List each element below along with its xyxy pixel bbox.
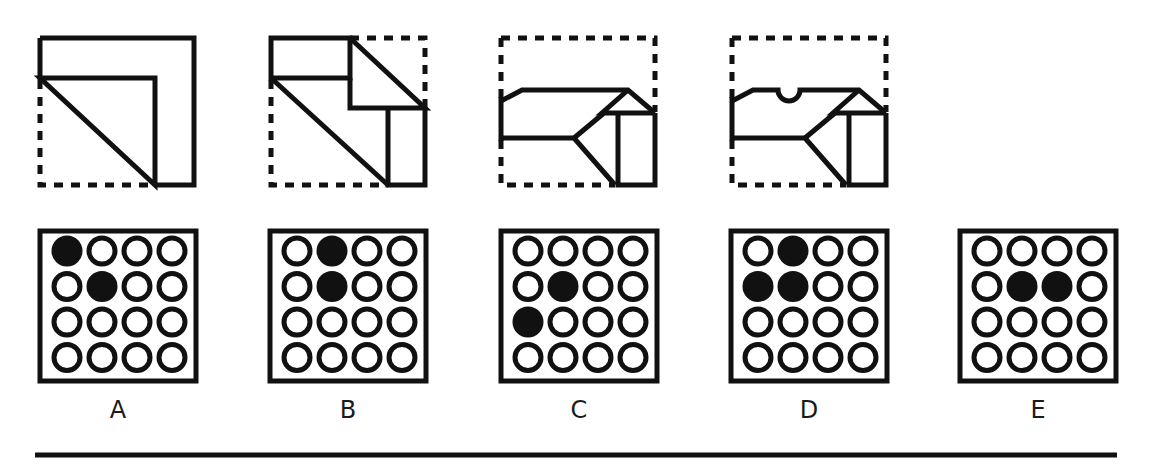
fold-step-1 bbox=[40, 38, 194, 185]
empty-dot bbox=[284, 309, 310, 335]
fold-step-3 bbox=[501, 38, 655, 185]
empty-dot bbox=[284, 274, 310, 300]
empty-dot bbox=[515, 238, 541, 264]
empty-dot bbox=[319, 345, 345, 371]
empty-dot bbox=[389, 345, 415, 371]
empty-dot bbox=[1079, 309, 1105, 335]
empty-dot bbox=[1079, 238, 1105, 264]
empty-dot bbox=[1044, 345, 1070, 371]
filled-dot bbox=[513, 307, 544, 338]
empty-dot bbox=[850, 274, 876, 300]
empty-dot bbox=[389, 238, 415, 264]
empty-dot bbox=[974, 238, 1000, 264]
empty-dot bbox=[89, 238, 115, 264]
empty-dot bbox=[89, 345, 115, 371]
filled-dot bbox=[87, 271, 118, 302]
filled-dot bbox=[778, 236, 809, 267]
empty-dot bbox=[1009, 309, 1035, 335]
empty-dot bbox=[550, 345, 576, 371]
empty-dot bbox=[159, 345, 185, 371]
empty-dot bbox=[159, 274, 185, 300]
option-a[interactable] bbox=[40, 231, 196, 381]
filled-dot bbox=[1042, 271, 1073, 302]
empty-dot bbox=[550, 238, 576, 264]
empty-dot bbox=[620, 238, 646, 264]
empty-dot bbox=[54, 345, 80, 371]
empty-dot bbox=[515, 274, 541, 300]
empty-dot bbox=[124, 345, 150, 371]
option-b[interactable] bbox=[270, 231, 426, 381]
filled-dot bbox=[743, 271, 774, 302]
filled-dot bbox=[1007, 271, 1038, 302]
empty-dot bbox=[550, 309, 576, 335]
empty-dot bbox=[1044, 238, 1070, 264]
empty-dot bbox=[780, 345, 806, 371]
empty-dot bbox=[354, 238, 380, 264]
empty-dot bbox=[745, 309, 771, 335]
empty-dot bbox=[850, 309, 876, 335]
empty-dot bbox=[1044, 309, 1070, 335]
empty-dot bbox=[124, 238, 150, 264]
filled-dot bbox=[778, 271, 809, 302]
option-label-b: B bbox=[318, 396, 378, 424]
empty-dot bbox=[620, 345, 646, 371]
empty-dot bbox=[354, 274, 380, 300]
empty-dot bbox=[780, 309, 806, 335]
option-e[interactable] bbox=[960, 231, 1116, 381]
empty-dot bbox=[89, 309, 115, 335]
empty-dot bbox=[354, 309, 380, 335]
puzzle-canvas: A B C D E bbox=[0, 0, 1150, 468]
filled-dot bbox=[548, 271, 579, 302]
empty-dot bbox=[389, 309, 415, 335]
empty-dot bbox=[124, 274, 150, 300]
option-label-c: C bbox=[549, 396, 609, 424]
empty-dot bbox=[815, 309, 841, 335]
filled-dot bbox=[317, 236, 348, 267]
answer-options bbox=[40, 231, 1116, 381]
empty-dot bbox=[620, 274, 646, 300]
option-label-e: E bbox=[1008, 396, 1068, 424]
option-label-a: A bbox=[88, 396, 148, 424]
fold-step-4 bbox=[732, 38, 886, 185]
empty-dot bbox=[354, 345, 380, 371]
empty-dot bbox=[124, 309, 150, 335]
empty-dot bbox=[585, 309, 611, 335]
empty-dot bbox=[319, 309, 345, 335]
empty-dot bbox=[1009, 345, 1035, 371]
empty-dot bbox=[585, 238, 611, 264]
empty-dot bbox=[159, 309, 185, 335]
empty-dot bbox=[54, 309, 80, 335]
empty-dot bbox=[745, 345, 771, 371]
empty-dot bbox=[54, 274, 80, 300]
option-label-d: D bbox=[779, 396, 839, 424]
empty-dot bbox=[745, 238, 771, 264]
empty-dot bbox=[850, 345, 876, 371]
filled-dot bbox=[317, 271, 348, 302]
empty-dot bbox=[585, 345, 611, 371]
empty-dot bbox=[284, 238, 310, 264]
empty-dot bbox=[974, 309, 1000, 335]
empty-dot bbox=[1009, 238, 1035, 264]
empty-dot bbox=[515, 345, 541, 371]
empty-dot bbox=[974, 345, 1000, 371]
empty-dot bbox=[1079, 345, 1105, 371]
option-d[interactable] bbox=[731, 231, 887, 381]
empty-dot bbox=[974, 274, 1000, 300]
empty-dot bbox=[389, 274, 415, 300]
punch-hole-notch bbox=[732, 90, 886, 113]
empty-dot bbox=[620, 309, 646, 335]
option-c[interactable] bbox=[501, 231, 657, 381]
empty-dot bbox=[815, 274, 841, 300]
empty-dot bbox=[850, 238, 876, 264]
empty-dot bbox=[1079, 274, 1105, 300]
empty-dot bbox=[815, 345, 841, 371]
filled-dot bbox=[52, 236, 83, 267]
fold-step-2 bbox=[271, 38, 425, 185]
empty-dot bbox=[815, 238, 841, 264]
empty-dot bbox=[284, 345, 310, 371]
empty-dot bbox=[159, 238, 185, 264]
empty-dot bbox=[585, 274, 611, 300]
